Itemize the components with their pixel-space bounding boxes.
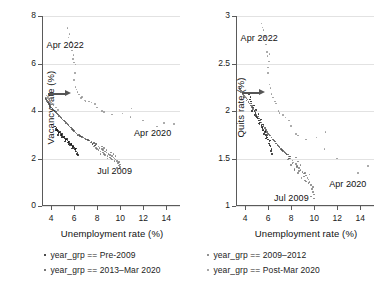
data-point [80,97,82,99]
data-point [52,103,54,105]
y-tick [38,111,42,112]
data-point [265,129,267,131]
data-point [288,120,290,122]
y-tick-label: 6 [10,59,36,68]
annotation-label: Apr 2022 [241,33,278,43]
x-tick [143,206,144,210]
x-axis-line [236,205,374,206]
x-tick-label: 6 [64,214,84,223]
data-point [313,198,315,200]
legend-label: year_grp == Post-Mar 2020 [213,265,319,275]
data-point [110,152,112,154]
y-tick-label: 1.5 [204,154,230,163]
legend-item[interactable]: year_grp == 2009–2012 [207,250,306,260]
x-tick [268,206,269,210]
x-tick-label: 14 [350,214,370,223]
data-point [96,107,98,109]
gridline-y [42,206,180,207]
data-point [109,154,111,156]
data-point [269,144,271,146]
data-point [77,91,79,93]
x-tick-label: 6 [258,214,278,223]
data-point [57,109,59,111]
x-tick-label: 8 [281,214,301,223]
legend-item[interactable]: year_grp == Post-Mar 2020 [207,265,320,275]
data-point [249,103,251,105]
data-point [270,150,272,152]
data-point [265,44,267,46]
data-point [268,61,270,63]
data-point [71,128,73,130]
data-point [55,111,57,113]
annotation-label: Jul 2009 [274,193,309,203]
data-point [308,182,310,184]
y-tick-label: 2.5 [204,59,230,68]
gridline-y [42,64,180,65]
data-point [298,167,300,169]
data-point [68,141,70,143]
data-point [95,147,97,149]
data-point [311,188,313,190]
legend-item[interactable]: year_grp == Pre-2009 [44,250,136,260]
plot-area-quits: 11.522.53468101214Unemployment rate (%)Q… [236,16,374,206]
data-point [297,161,299,163]
data-point [85,100,87,102]
data-point [281,149,283,151]
data-point [55,107,57,109]
legend-marker-icon [207,254,209,256]
data-point [75,86,77,88]
data-point [271,93,273,95]
arrow-head [65,90,71,96]
data-point [100,153,102,155]
y-tick-label: 2 [10,154,36,163]
data-point [274,141,276,143]
arrow-shaft [242,92,259,94]
y-tick [38,159,42,160]
gridline-y [236,159,374,160]
data-point [104,154,106,156]
shift-arrow [242,89,264,96]
legend-item[interactable]: year_grp == 2013–Mar 2020 [44,265,161,275]
data-point [300,164,302,166]
data-point [309,181,311,183]
data-point [262,27,264,29]
data-point [267,55,269,57]
x-tick [166,206,167,210]
data-point [73,54,75,56]
data-point [106,152,108,154]
data-point [290,164,292,166]
data-point [263,133,265,135]
gridline-y [236,111,374,112]
y-tick [38,206,42,207]
data-point [73,130,75,132]
legend-label: year_grp == Pre-2009 [50,250,135,260]
y-tick [38,64,42,65]
data-point [98,149,100,151]
data-point [271,153,273,155]
data-point [109,157,111,159]
data-point [252,108,254,110]
data-point [111,114,113,116]
y-axis-title: Quits rate (%) [235,38,246,178]
y-tick-label: 1 [204,201,230,210]
data-point [261,122,263,124]
y-tick-label: 2 [204,106,230,115]
data-point [312,191,314,193]
x-axis-title: Unemployment rate (%) [226,228,383,239]
annotation-label: Jul 2009 [97,166,132,176]
data-point [71,148,73,150]
data-point [142,120,144,122]
annotation-label: Apr 2022 [47,40,84,50]
x-tick [74,206,75,210]
data-point [75,150,77,152]
x-tick [97,206,98,210]
data-point [292,162,294,164]
data-point [111,159,113,161]
data-point [130,116,132,118]
data-point [305,139,307,141]
data-point [93,142,95,144]
data-point [310,196,312,198]
data-point [78,94,80,96]
data-point [113,153,115,155]
data-point [71,143,73,145]
